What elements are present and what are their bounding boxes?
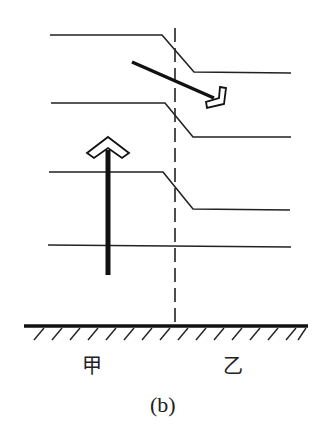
isoline-4	[48, 245, 291, 247]
label-yi: 乙	[223, 350, 243, 379]
ground	[24, 326, 308, 340]
isoline-3	[49, 172, 290, 210]
isoline-1	[50, 35, 291, 73]
label-jia: 甲	[82, 350, 102, 379]
caption-b: (b)	[150, 392, 176, 418]
diagram-canvas	[0, 0, 326, 447]
diagonal-arrow-icon	[132, 62, 226, 108]
upward-arrow-icon	[87, 137, 129, 275]
isoline-2	[51, 103, 291, 137]
isolines	[48, 35, 291, 247]
